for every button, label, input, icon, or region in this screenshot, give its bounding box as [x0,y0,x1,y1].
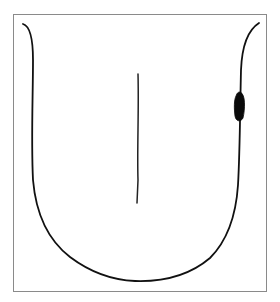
lesion [234,92,244,121]
tongue-diagram [0,0,280,302]
tongue-drawing [0,0,280,302]
tongue-outline [23,23,259,281]
midline-groove [137,74,138,203]
